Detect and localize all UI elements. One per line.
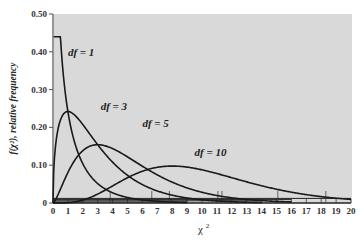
x-tick-label: 18 — [317, 206, 327, 216]
y-tick-label: 0.50 — [31, 9, 47, 19]
x-tick-label: 14 — [257, 206, 267, 216]
curve-label-df1: df = 1 — [68, 46, 94, 58]
plot-background — [52, 14, 352, 203]
x-axis-label-superscript: 2 — [206, 222, 210, 230]
x-tick-label: 6 — [140, 206, 145, 216]
y-tick-label: 0.10 — [31, 160, 47, 170]
x-tick-label: 11 — [213, 206, 222, 216]
x-tick-label: 20 — [347, 206, 357, 216]
y-tick-label: 0.30 — [31, 85, 47, 95]
curve-label-df5: df = 5 — [142, 117, 169, 129]
y-tick-label: 0.40 — [31, 47, 47, 57]
x-tick-label: 9 — [185, 206, 190, 216]
x-tick-label: 16 — [287, 206, 297, 216]
x-axis-label-main: χ — [197, 223, 203, 235]
x-axis-label: χ 2 — [197, 222, 210, 235]
x-tick-label: 8 — [170, 206, 175, 216]
x-tick-label: 10 — [198, 206, 208, 216]
x-tick-label: 17 — [302, 206, 312, 216]
x-tick-label: 13 — [242, 206, 252, 216]
x-tick-label: 4 — [110, 206, 115, 216]
y-tick-label: 0 — [43, 198, 48, 208]
x-tick-label: 1 — [66, 206, 71, 216]
x-tick-label: 15 — [272, 206, 282, 216]
x-tick-label: 2 — [81, 206, 86, 216]
x-tick-label: 19 — [332, 206, 342, 216]
x-tick-label: 12 — [227, 206, 237, 216]
chi-square-chart: 00.100.200.300.400.50 012345678910111213… — [0, 0, 364, 242]
y-axis: 00.100.200.300.400.50 — [31, 9, 53, 208]
curve-label-df3: df = 3 — [101, 100, 128, 112]
x-tick-label: 7 — [155, 206, 160, 216]
x-tick-label: 0 — [51, 206, 56, 216]
curve-label-df10: df = 10 — [195, 146, 227, 158]
y-tick-label: 0.20 — [31, 122, 47, 132]
x-tick-label: 5 — [125, 206, 130, 216]
y-axis-label: f(χ²), relative frequency — [8, 62, 19, 155]
x-tick-label: 3 — [95, 206, 100, 216]
